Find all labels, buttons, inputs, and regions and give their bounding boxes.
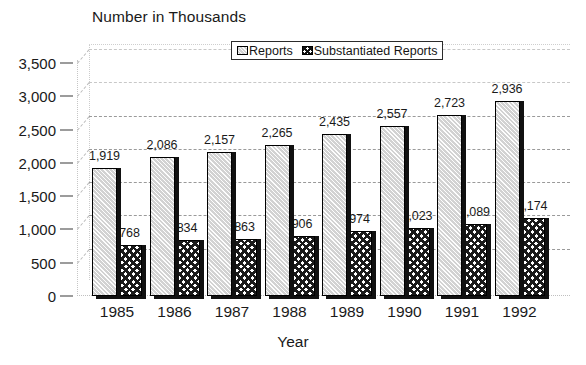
bar-group: 2,7231,089 <box>437 46 487 296</box>
y-axis-tick-mark <box>60 229 73 230</box>
bar-chart: Number in Thousands 3,5003,0002,5002,000… <box>0 0 586 365</box>
bar-reports[interactable] <box>322 134 347 296</box>
bar-substantiated-reports[interactable] <box>175 240 200 296</box>
legend-swatch-substantiated-icon <box>302 46 313 55</box>
x-axis-tick-label: 1985 <box>100 303 134 321</box>
bar-group: 2,435974 <box>322 46 372 296</box>
y-axis-tick-label: 0 <box>4 288 56 305</box>
y-axis-tick-mark <box>60 63 73 64</box>
x-axis-title: Year <box>0 333 586 351</box>
bar-reports[interactable] <box>150 157 175 296</box>
depth-connector-line <box>77 249 90 264</box>
depth-connector-line <box>77 49 90 64</box>
depth-connector-line <box>77 215 90 230</box>
bar-value-label: 2,265 <box>252 126 303 140</box>
y-axis-tick-mark <box>60 162 73 163</box>
bar-value-label: 1,919 <box>79 149 130 163</box>
legend-item-substantiated-reports: Substantiated Reports <box>302 44 438 58</box>
x-axis-tick-label: 1990 <box>387 303 421 321</box>
depth-connector-line <box>77 116 90 131</box>
y-axis-tick-mark <box>60 196 73 197</box>
bar-group: 2,5571,023 <box>380 46 430 296</box>
y-axis-tick-mark <box>60 262 73 263</box>
bar-substantiated-reports[interactable] <box>232 239 257 296</box>
chart-title: Number in Thousands <box>92 8 246 26</box>
bar-reports[interactable] <box>495 101 520 296</box>
x-axis-tick-label: 1988 <box>272 303 306 321</box>
bar-value-label: 2,723 <box>424 96 475 110</box>
legend-item-reports: Reports <box>237 44 293 58</box>
x-axis-tick-label: 1992 <box>502 303 536 321</box>
y-axis-tick-mark <box>60 96 73 97</box>
bar-value-label: 2,086 <box>137 138 188 152</box>
bar-substantiated-reports[interactable] <box>520 218 545 296</box>
x-axis-tick-label: 1989 <box>330 303 364 321</box>
y-axis-tick-mark <box>60 129 73 130</box>
bar-group: 1,919768 <box>92 46 142 296</box>
x-axis-tick-label: 1991 <box>445 303 479 321</box>
bar-reports[interactable] <box>207 152 232 296</box>
depth-connector-line <box>77 182 90 197</box>
y-axis-tick-label: 2,000 <box>4 154 56 171</box>
bar-substantiated-reports[interactable] <box>405 228 430 296</box>
plot-area: 1,9197682,0868342,1578632,2659062,435974… <box>77 46 570 296</box>
bar-value-label: 2,435 <box>309 115 360 129</box>
y-axis-tick-label: 3,500 <box>4 55 56 72</box>
bar-group: 2,265906 <box>265 46 315 296</box>
bar-value-label: 2,157 <box>194 133 245 147</box>
bar-group: 2,086834 <box>150 46 200 296</box>
legend-label-reports: Reports <box>249 44 293 58</box>
y-axis-tick-mark <box>60 296 73 297</box>
bar-group: 2,9361,174 <box>495 46 545 296</box>
x-axis-tick-label: 1986 <box>157 303 191 321</box>
bar-reports[interactable] <box>265 145 290 296</box>
y-axis-tick-label: 500 <box>4 254 56 271</box>
y-axis-tick-label: 3,000 <box>4 88 56 105</box>
y-axis-tick-label: 2,500 <box>4 121 56 138</box>
bar-value-label: 2,936 <box>482 82 533 96</box>
y-axis-tick-label: 1,500 <box>4 188 56 205</box>
bar-value-label: 2,557 <box>367 107 418 121</box>
bar-substantiated-reports[interactable] <box>117 245 142 296</box>
bar-reports[interactable] <box>92 168 117 296</box>
depth-connector-line <box>77 82 90 97</box>
legend-swatch-reports-icon <box>237 46 248 55</box>
bar-group: 2,157863 <box>207 46 257 296</box>
bar-substantiated-reports[interactable] <box>462 224 487 296</box>
bar-reports[interactable] <box>380 126 405 296</box>
bar-substantiated-reports[interactable] <box>290 236 315 296</box>
y-axis: 3,5003,0002,5002,0001,5001,0005000 <box>0 0 56 365</box>
bar-substantiated-reports[interactable] <box>347 231 372 296</box>
bar-reports[interactable] <box>437 115 462 296</box>
chart-legend: Reports Substantiated Reports <box>231 41 443 60</box>
legend-label-substantiated-reports: Substantiated Reports <box>314 44 438 58</box>
y-axis-tick-label: 1,000 <box>4 221 56 238</box>
x-axis-tick-label: 1987 <box>215 303 249 321</box>
